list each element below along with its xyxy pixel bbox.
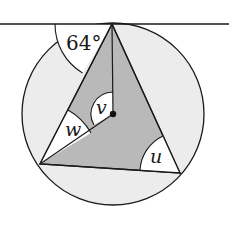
geometry-diagram: 64° v w u — [0, 0, 229, 225]
center-point — [110, 111, 116, 117]
angle-w-label: w — [65, 118, 81, 140]
angle-u-label: u — [150, 145, 162, 167]
tangent-angle-label: 64° — [66, 31, 101, 55]
angle-v-label: v — [96, 96, 107, 118]
